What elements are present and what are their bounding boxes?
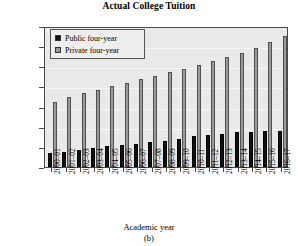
x-tick-label: 2005–06 [126,148,134,174]
bar-public-four-year [192,136,196,167]
bar-group [247,28,261,167]
legend-label-public: Public four-year [65,34,117,43]
bar-public-four-year [278,131,282,167]
x-tick-mark [166,168,167,172]
bar-group [218,28,232,167]
bar-public-four-year [206,135,210,167]
x-tick-label: 2015–16 [269,148,277,174]
x-tick-mark [180,168,181,172]
x-tick-mark [94,168,95,172]
bar-public-four-year [177,139,181,167]
x-tick-label: 2004–05 [112,148,120,174]
x-tick-mark [109,168,110,172]
legend-swatch-private-icon [55,47,61,53]
x-tick-label: 2011–12 [212,149,220,174]
x-tick-label: 2001–02 [69,148,77,174]
legend-item-public: Public four-year [55,32,140,44]
x-tick-label: 2009–10 [183,148,191,174]
bar-public-four-year [220,134,224,167]
bar-group [175,28,189,167]
x-tick-mark [238,168,239,172]
bar-public-four-year [120,145,124,167]
x-tick-label: 2003–04 [97,148,105,174]
x-tick-mark [195,168,196,172]
bar-public-four-year [105,146,109,167]
bar-public-four-year [163,141,167,167]
legend-label-private: Private four-year [65,46,119,55]
legend-swatch-public-icon [55,35,61,41]
bar-group [190,28,204,167]
x-tick-mark [281,168,282,172]
x-tick-label: 2006–07 [140,148,148,174]
x-tick-label: 2013–14 [241,148,249,174]
x-tick-label: 2012–13 [226,148,234,174]
bar-group [146,28,160,167]
x-tick-mark [252,168,253,172]
bar-public-four-year [134,144,138,167]
x-tick-label: 2014–15 [255,148,263,174]
x-tick-mark [223,168,224,172]
figure-college-tuition: Actual College Tuition $35,000$30,000$25… [0,0,298,246]
bar-public-four-year [249,132,253,167]
chart-legend: Public four-year Private four-year [50,29,145,59]
bar-group [233,28,247,167]
bar-group [204,28,218,167]
x-tick-label: 2010–11 [198,149,206,174]
x-axis-title: Academic year [0,222,298,232]
bar-public-four-year [263,131,267,167]
x-tick-mark [80,168,81,172]
bar-group [261,28,275,167]
x-tick-label: 2002–03 [83,148,91,174]
bar-public-four-year [148,142,152,167]
bar-group [276,28,288,167]
bar-group [161,28,175,167]
bar-public-four-year [77,150,81,167]
x-tick-mark [51,168,52,172]
x-tick-mark [209,168,210,172]
bar-public-four-year [62,152,66,167]
bar-public-four-year [235,132,239,167]
x-tick-label: 2007–08 [155,148,163,174]
legend-item-private: Private four-year [55,44,140,56]
x-tick-label: 2016–17 [284,148,292,174]
x-tick-mark [152,168,153,172]
figure-caption: (b) [0,233,298,243]
x-tick-mark [137,168,138,172]
bar-public-four-year [48,153,52,167]
y-tick-mark [39,168,44,169]
bar-public-four-year [91,148,95,167]
x-tick-mark [266,168,267,172]
x-tick-mark [123,168,124,172]
x-tick-mark [66,168,67,172]
x-tick-label: 2008–09 [169,148,177,174]
x-tick-label: 2000–01 [54,148,62,174]
chart-title: Actual College Tuition [0,1,298,11]
